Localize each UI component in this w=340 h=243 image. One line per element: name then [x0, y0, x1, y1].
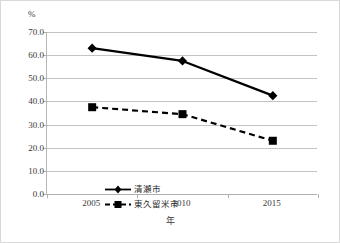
plot-area: 清瀬市 東久留米市	[46, 32, 317, 194]
y-tick-label: 10.0	[8, 166, 44, 176]
x-tick-mark	[47, 194, 48, 198]
line-chart: % 清瀬市	[0, 0, 340, 243]
y-axis-unit-label: %	[28, 9, 36, 19]
y-tick-label: 70.0	[8, 27, 44, 37]
data-point-marker	[268, 91, 277, 100]
x-axis-title: 年	[1, 214, 339, 227]
y-tick-label: 20.0	[8, 143, 44, 153]
x-tick-label: 2010	[152, 198, 212, 208]
y-tick-label: 40.0	[8, 96, 44, 106]
data-point-marker	[178, 56, 187, 65]
data-point-marker	[179, 110, 187, 118]
data-point-marker	[269, 137, 277, 145]
legend-key-diamond-solid	[105, 184, 131, 195]
y-tick-label: 30.0	[8, 120, 44, 130]
gridline	[47, 194, 317, 195]
x-tick-label: 2015	[242, 198, 302, 208]
series-plot	[47, 32, 318, 194]
x-tick-mark	[228, 194, 229, 198]
y-tick-label: 0.0	[8, 189, 44, 199]
y-tick-label: 50.0	[8, 73, 44, 83]
legend-label: 清瀬市	[134, 185, 161, 194]
data-point-marker	[88, 103, 96, 111]
x-tick-label: 2005	[61, 198, 121, 208]
data-point-marker	[88, 44, 97, 53]
legend-item: 清瀬市	[105, 182, 179, 197]
series-line-1	[92, 48, 273, 95]
x-tick-mark	[318, 194, 319, 198]
y-tick-label: 60.0	[8, 50, 44, 60]
